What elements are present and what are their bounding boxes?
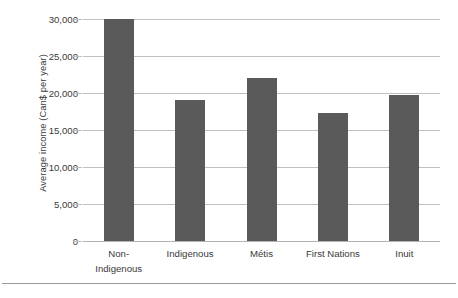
x-axis-category-label: Indigenous [154, 246, 225, 261]
bar [318, 113, 348, 241]
x-axis-category-label: Non-Indigenous [83, 246, 154, 276]
plot-area [83, 19, 440, 241]
x-axis-category-label-line: First Nations [297, 246, 368, 261]
x-axis-category-label-line: Non- [83, 246, 154, 261]
y-axis-tick-mark [73, 56, 82, 57]
y-axis-tick-mark [73, 204, 82, 205]
x-axis-category-label-line: Inuit [369, 246, 440, 261]
gridline [83, 56, 440, 57]
y-axis-tick-mark [73, 93, 82, 94]
bar-chart: Average income (Can$ per year) 05,00010,… [0, 0, 458, 298]
x-axis-category-label-line: Métis [226, 246, 297, 261]
axis-baseline [83, 241, 440, 242]
x-axis-category-label: First Nations [297, 246, 368, 261]
page-divider-rule [2, 283, 456, 284]
x-axis-category-labels: Non-IndigenousIndigenousMétisFirst Natio… [83, 246, 440, 292]
y-axis-tick-mark [73, 130, 82, 131]
x-axis-category-label: Métis [226, 246, 297, 261]
x-axis-category-label-line: Indigenous [154, 246, 225, 261]
bar [104, 19, 134, 241]
x-axis-category-label: Inuit [369, 246, 440, 261]
y-axis-tick-mark [73, 167, 82, 168]
y-axis-tick-mark [73, 19, 82, 20]
y-axis-tick-mark [73, 241, 82, 242]
bar [247, 78, 277, 241]
bar [175, 100, 205, 241]
gridline [83, 19, 440, 20]
bar [389, 95, 419, 241]
x-axis-category-label-line: Indigenous [83, 261, 154, 276]
